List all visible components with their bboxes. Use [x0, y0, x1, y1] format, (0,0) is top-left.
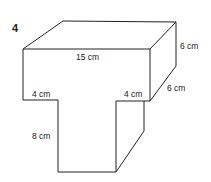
label-top-length: 15 cm [76, 52, 99, 62]
front-face-outline [23, 49, 150, 172]
label-height-top: 6 cm [180, 41, 198, 51]
label-stem-height: 8 cm [32, 131, 50, 141]
label-left-overhang: 4 cm [32, 89, 50, 99]
label-right-overhang: 4 cm [124, 89, 142, 99]
label-depth: 6 cm [167, 83, 185, 93]
stem-side [116, 101, 144, 172]
top-face-edges [23, 21, 176, 49]
t-prism-diagram: 4 15 cm 6 cm 6 cm 4 cm 4 cm 8 cm [0, 0, 211, 182]
question-number: 4 [12, 22, 19, 34]
